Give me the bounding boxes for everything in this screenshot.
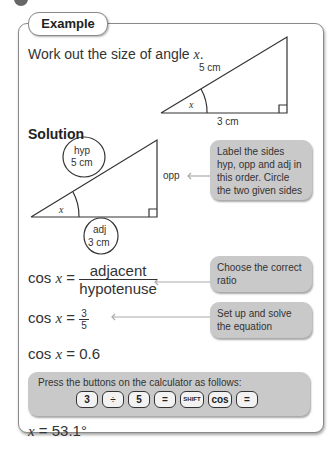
calculator-instruction-text: Press the buttons on the calculator as f…: [38, 377, 241, 388]
equation-step-2: cos x = 35: [28, 308, 89, 331]
key-cos: cos: [208, 391, 232, 408]
solution-title: Solution: [28, 126, 84, 142]
equation-step-1: cos x = adjacenthypotenuse: [28, 262, 157, 297]
callout-set-up-equation: Set up and solve the equation: [210, 302, 312, 338]
key-equals: =: [154, 391, 176, 408]
question-hyp-label: 5 cm: [199, 62, 221, 73]
solution-angle-label: x: [59, 204, 63, 215]
callout-choose-ratio: Choose the correct ratio: [210, 256, 312, 292]
equation-step-3: cos x = 0.6: [28, 345, 100, 363]
key-equals-final: =: [236, 391, 258, 408]
value-fraction: 35: [79, 308, 89, 331]
calculator-key-sequence: 3 ÷ 5 = SHIFT cos =: [76, 391, 258, 408]
hyp-length-label: 5 cm: [71, 157, 93, 168]
key-5: 5: [128, 391, 150, 408]
adj-label: adj: [93, 224, 106, 235]
opp-label: opp: [163, 170, 180, 181]
question-adj-label: 3 cm: [217, 116, 239, 127]
key-3: 3: [76, 391, 98, 408]
adj-length-label: 3 cm: [88, 237, 110, 248]
calculator-instructions-box: Press the buttons on the calculator as f…: [28, 372, 310, 416]
ratio-fraction: adjacenthypotenuse: [79, 262, 157, 297]
hyp-label: hyp: [74, 145, 90, 156]
final-answer: x = 53.1°: [28, 422, 87, 440]
key-divide: ÷: [102, 391, 124, 408]
key-shift: SHIFT: [180, 391, 204, 408]
question-angle-label: x: [189, 99, 193, 110]
callout-label-sides: Label the sides hyp, opp and adj in this…: [210, 140, 312, 200]
